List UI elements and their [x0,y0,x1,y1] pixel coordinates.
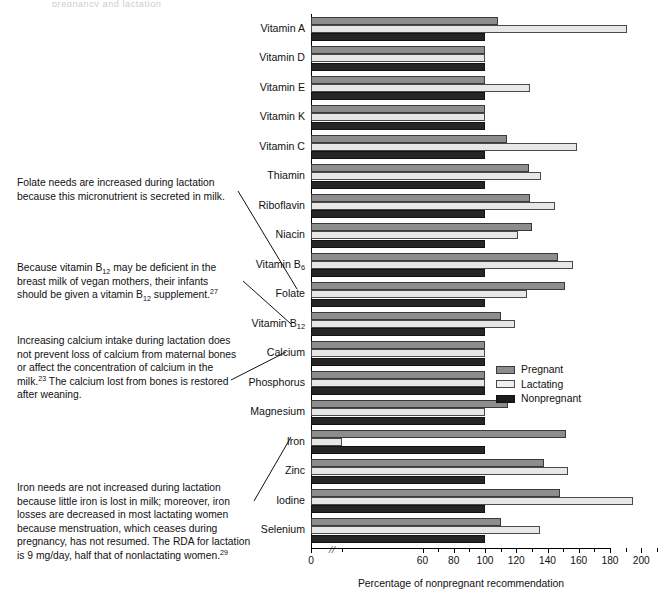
annotation-folate: Folate needs are increased during lactat… [17,176,232,203]
x-tick-label-180: 180 [602,555,619,566]
annotation-iron: Iron needs are not increased during lact… [17,481,253,563]
category-label-zinc: Zinc [285,465,305,476]
bar-lactating-phosphorus [311,379,485,387]
bar-pregnant-zinc [311,459,544,467]
bar-lactating-iron [311,438,342,446]
bar-pregnant-vitamin-k [311,105,485,113]
chart-row: Vitamin B12 [311,309,611,339]
x-minor-tick [563,548,564,552]
bar-nonpregnant-niacin [311,240,485,248]
bar-nonpregnant-thiamin [311,181,485,189]
bar-pregnant-phosphorus [311,371,485,379]
category-label-vitamin-a: Vitamin A [260,23,305,34]
top-cropped-text-artifact: pregnancy and lactation [52,0,252,7]
legend-swatch-pregnant [496,366,515,374]
bar-nonpregnant-selenium [311,535,485,543]
x-minor-tick [342,548,343,552]
x-tick-label-140: 140 [539,555,556,566]
bar-nonpregnant-vitamin-b6 [311,269,485,277]
legend-label-lactating: Lactating [521,379,563,390]
bar-pregnant-iodine [311,489,560,497]
category-label-magnesium: Magnesium [250,406,305,417]
bar-nonpregnant-iron [311,446,485,454]
x-tick [516,548,517,553]
bar-pregnant-calcium [311,341,485,349]
category-label-calcium: Calcium [267,347,305,358]
bar-pregnant-iron [311,430,566,438]
bar-nonpregnant-zinc [311,476,485,484]
bar-lactating-calcium [311,349,485,357]
x-minor-tick [626,548,627,552]
bar-pregnant-magnesium [311,400,508,408]
bar-nonpregnant-phosphorus [311,387,485,395]
chart-row: Iron [311,427,611,457]
x-tick-label-100: 100 [477,555,494,566]
chart-row: Folate [311,280,611,310]
x-tick-label-200: 200 [633,555,650,566]
category-label-folate: Folate [276,288,305,299]
annotation-calcium: Increasing calcium intake during lactati… [17,334,243,402]
bar-nonpregnant-folate [311,299,485,307]
legend-swatch-lactating [496,380,515,388]
chart-row: Vitamin E [311,73,611,103]
bar-chart: Vitamin AVitamin DVitamin EVitamin KVita… [245,14,611,607]
x-tick [641,548,642,553]
bar-nonpregnant-iodine [311,505,485,513]
bar-pregnant-selenium [311,518,501,526]
category-label-iron: Iron [287,436,305,447]
x-minor-tick [501,548,502,552]
bar-pregnant-vitamin-c [311,135,507,143]
chart-row: Vitamin C [311,132,611,162]
x-tick-label-120: 120 [508,555,525,566]
bar-nonpregnant-riboflavin [311,210,485,218]
chart-row: Niacin [311,221,611,251]
x-tick-label-0: 0 [308,555,314,566]
x-tick [485,548,486,553]
x-tick-label-80: 80 [448,555,459,566]
axis-break-icon: // [329,543,335,555]
bar-lactating-vitamin-k [311,113,485,121]
chart-row: Iodine [311,486,611,516]
bar-nonpregnant-vitamin-d [311,63,485,71]
chart-row: Selenium [311,516,611,546]
x-tick-label-60: 60 [417,555,428,566]
bar-pregnant-vitamin-a [311,17,498,25]
bar-pregnant-folate [311,282,565,290]
bar-nonpregnant-calcium [311,358,485,366]
bar-pregnant-niacin [311,223,532,231]
bar-lactating-zinc [311,467,568,475]
category-label-riboflavin: Riboflavin [258,200,305,211]
category-label-vitamin-d: Vitamin D [259,52,305,63]
legend-item-lactating: Lactating [496,378,581,391]
x-tick [311,548,312,553]
bar-lactating-vitamin-b6 [311,261,573,269]
x-minor-tick [438,548,439,552]
x-tick [610,548,611,553]
bar-nonpregnant-vitamin-e [311,92,485,100]
legend-item-nonpregnant: Nonpregnant [496,392,581,405]
bar-lactating-vitamin-c [311,143,577,151]
bar-nonpregnant-vitamin-c [311,151,485,159]
bar-pregnant-riboflavin [311,194,530,202]
annotation-vitamin-b12: Because vitamin B12 may be deficient in … [17,261,239,302]
bar-pregnant-vitamin-b12 [311,312,501,320]
category-label-vitamin-e: Vitamin E [260,82,305,93]
category-label-vitamin-c: Vitamin C [259,141,305,152]
bar-lactating-vitamin-a [311,25,627,33]
x-axis-title: Percentage of nonpregnant recommendation [311,578,611,589]
bar-pregnant-vitamin-d [311,46,485,54]
category-label-thiamin: Thiamin [267,170,305,181]
chart-row: Riboflavin [311,191,611,221]
category-label-niacin: Niacin [276,229,305,240]
x-tick [454,548,455,553]
category-label-vitamin-b6: Vitamin B6 [256,259,305,273]
chart-row: Zinc [311,457,611,487]
plot-area: Vitamin AVitamin DVitamin EVitamin KVita… [311,14,611,545]
x-tick [423,548,424,553]
bar-pregnant-vitamin-b6 [311,253,558,261]
bar-lactating-vitamin-e [311,84,530,92]
bar-lactating-riboflavin [311,202,555,210]
bar-pregnant-thiamin [311,164,529,172]
x-tick [548,548,549,553]
bar-nonpregnant-magnesium [311,417,485,425]
